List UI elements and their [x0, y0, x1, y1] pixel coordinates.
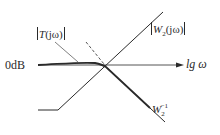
t-magnitude-label: T(jω) — [36, 27, 66, 40]
t-arg: (jω) — [45, 28, 63, 40]
t-label-leader — [55, 42, 78, 62]
abs-bar-left — [37, 27, 38, 40]
w-symbol: W — [152, 103, 161, 115]
w2-magnitude-label: W2(jω) — [150, 22, 186, 35]
t-curve — [38, 63, 150, 108]
w2-arg: (jω) — [166, 23, 184, 35]
w2-inverse-label: W2−1 — [152, 104, 168, 115]
x-axis-label: lg ω — [186, 58, 207, 70]
axis-arrow-icon — [176, 63, 184, 68]
w-subscript: 2 — [161, 110, 165, 118]
abs-bar-right — [184, 22, 185, 35]
zero-db-label: 0dB — [5, 59, 25, 71]
abs-bar-right — [64, 27, 65, 40]
zero-db-text: 0dB — [5, 58, 25, 72]
abs-bar-left — [151, 22, 152, 35]
dashed-asymptote — [86, 42, 104, 64]
w-symbol: W — [153, 23, 162, 35]
lg-omega-text: lg ω — [186, 57, 207, 71]
w-superscript: −1 — [161, 102, 168, 110]
